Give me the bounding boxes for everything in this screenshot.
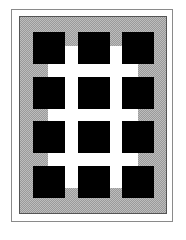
black-square-r3-c3 bbox=[122, 121, 154, 153]
black-square-r4-c2 bbox=[78, 166, 110, 198]
black-square-r3-c1 bbox=[33, 121, 65, 153]
black-square-r4-c1 bbox=[33, 166, 65, 198]
black-square-r3-c2 bbox=[78, 121, 110, 153]
black-square-r1-c2 bbox=[78, 32, 110, 64]
black-square-r2-c1 bbox=[33, 77, 65, 109]
black-square-r1-c3 bbox=[122, 32, 154, 64]
black-square-r4-c3 bbox=[122, 166, 154, 198]
black-square-r2-c2 bbox=[78, 77, 110, 109]
black-square-r1-c1 bbox=[33, 32, 65, 64]
black-square-r2-c3 bbox=[122, 77, 154, 109]
